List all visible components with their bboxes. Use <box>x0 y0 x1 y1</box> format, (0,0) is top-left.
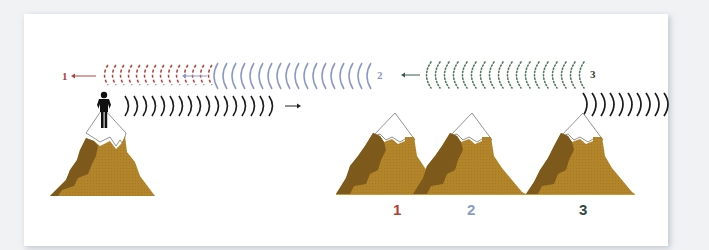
mountain-3 <box>526 113 635 194</box>
mountain-2 <box>413 113 526 194</box>
arrow-right-icon <box>285 104 301 109</box>
echo-diagram: 1 2 3 <box>0 0 709 250</box>
echo-1-label-group: 1 <box>62 70 96 82</box>
echo-1-waves <box>105 65 213 85</box>
echo-3-arrow <box>401 73 420 78</box>
arrow-left-icon <box>401 73 405 78</box>
reflected-wave <box>583 93 668 116</box>
mountain-1-label: 1 <box>393 201 401 218</box>
mountain-3-label: 3 <box>579 201 587 218</box>
echo-1-label: 1 <box>62 70 68 82</box>
arrow-left-icon <box>71 74 75 79</box>
echo-3-waves <box>427 62 585 88</box>
mountain-2-label: 2 <box>467 201 475 218</box>
echo-3-label: 3 <box>590 68 596 80</box>
shout-wave <box>125 96 273 116</box>
echo-2-label: 2 <box>377 69 383 81</box>
